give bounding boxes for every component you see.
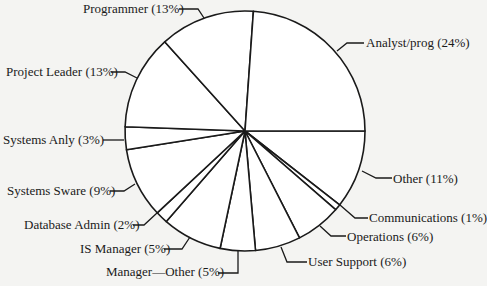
slice-label-communications: Communications (1%) — [369, 210, 487, 225]
slice-label-analyst: Analyst/prog (24%) — [366, 35, 470, 50]
slice-label-systems_sware: Systems Sware (9%) — [7, 183, 115, 198]
slice-label-is_manager: IS Manager (5%) — [80, 241, 170, 256]
slice-label-operations: Operations (6%) — [347, 229, 433, 244]
slice-label-database_admin: Database Admin (2%) — [24, 217, 140, 232]
leader-line-other — [362, 171, 392, 178]
slice-label-project_leader: Project Leader (13%) — [6, 64, 118, 79]
leader-line-user_support — [281, 247, 307, 262]
pie-slices — [125, 11, 365, 251]
slice-label-other: Other (11%) — [393, 171, 458, 186]
slice-label-manager_other: Manager—Other (5%) — [106, 264, 224, 279]
slice-label-programmer: Programmer (13%) — [83, 1, 184, 16]
leader-line-operations — [320, 226, 346, 236]
leader-line-communications — [340, 205, 368, 218]
pie-slice-analyst-prog — [245, 11, 365, 131]
leader-line-analyst — [337, 43, 364, 51]
slice-label-user_support: User Support (6%) — [308, 254, 406, 269]
slice-label-systems_anly: Systems Anly (3%) — [3, 132, 104, 147]
